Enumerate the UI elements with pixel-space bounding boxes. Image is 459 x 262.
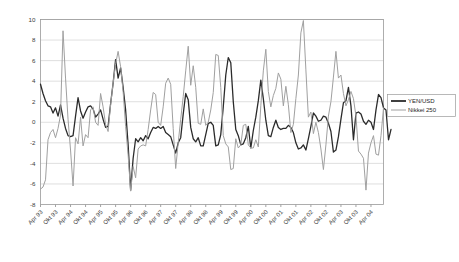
y-axis-tick-label: 2: [32, 98, 36, 105]
y-axis-tick-label: -6: [30, 180, 36, 187]
series-lines: [41, 21, 392, 192]
x-axis-tick-label: Okt 96: [132, 209, 149, 226]
x-axis-tick-label: Apr 02: [297, 209, 314, 226]
x-axis-tick-label: Apr 00: [237, 209, 254, 226]
x-axis-tick-label: Okt 97: [162, 209, 179, 226]
x-axis-tick-label: Okt 95: [102, 209, 119, 226]
line-chart: 1086420-2-4-6-8 Apr 93Okt 93Apr 94Okt 94…: [0, 0, 459, 262]
series-line-nikkei-250: [41, 21, 384, 192]
y-axis-tick-label: 4: [32, 77, 36, 84]
x-axis-tick-label: Okt 00: [252, 209, 269, 226]
x-axis-labels: Apr 93Okt 93Apr 94Okt 94Apr 95Okt 95Apr …: [27, 209, 375, 226]
y-axis-tick-label: -8: [30, 201, 36, 208]
legend-label-nikkei-250: Nikkei 250: [408, 107, 437, 113]
chart-container: 1086420-2-4-6-8 Apr 93Okt 93Apr 94Okt 94…: [0, 0, 459, 262]
x-axis-tick-label: Okt 99: [222, 209, 239, 226]
x-axis-tick-label: Apr 96: [117, 209, 134, 226]
x-axis-tick-label: Apr 04: [357, 209, 374, 226]
x-axis-tick-label: Apr 97: [147, 209, 164, 226]
y-axis-labels: 1086420-2-4-6-8: [29, 16, 36, 208]
y-axis-tick-label: 6: [32, 57, 36, 64]
x-axis-tick-label: Apr 94: [57, 209, 74, 226]
x-axis-tick-label: Okt 94: [72, 209, 89, 226]
y-axis-tick-label: 0: [32, 118, 36, 125]
plot-area-border: [41, 20, 384, 205]
y-axis-tick-label: -2: [30, 139, 36, 146]
x-axis-tick-label: Okt 01: [282, 209, 299, 226]
x-axis-tick-label: Apr 98: [177, 209, 194, 226]
x-axis-tick-label: Okt 98: [192, 209, 209, 226]
x-axis-tick-label: Okt 02: [312, 209, 329, 226]
x-axis-tick-label: Okt 03: [342, 209, 359, 226]
x-axis-tick-label: Apr 93: [27, 209, 44, 226]
legend-label-yen-usd: YEN/USD: [408, 98, 435, 104]
x-axis-tick-label: Apr 95: [87, 209, 104, 226]
x-axis-tick-label: Okt 93: [42, 209, 59, 226]
x-axis-tick-label: Apr 01: [267, 209, 284, 226]
x-axis-tick-label: Apr 03: [327, 209, 344, 226]
chart-legend[interactable]: YEN/USDNikkei 250: [388, 95, 456, 117]
y-axis-tick-label: -4: [30, 160, 36, 167]
y-axis-tick-label: 10: [29, 16, 36, 23]
x-axis-tick-label: Apr 99: [207, 209, 224, 226]
y-axis-tick-label: 8: [32, 36, 36, 43]
